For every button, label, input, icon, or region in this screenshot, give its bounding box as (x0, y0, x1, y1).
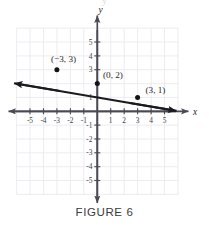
data-point (135, 95, 140, 100)
y-tick-label: -3 (86, 148, 92, 157)
point-label-neg3-3: (−3, 3) (51, 54, 76, 64)
point-label-3-1: (3, 1) (146, 85, 166, 95)
x-tick-label: 3 (136, 116, 140, 125)
x-tick-label: 2 (122, 116, 126, 125)
coordinate-plane-graph: -5 -4 -3 -2 -1 1 2 3 4 5 5 4 3 1 -1 -2 -… (0, 0, 209, 206)
data-point (54, 67, 59, 72)
data-point (95, 81, 100, 86)
y-axis-label: y (98, 5, 104, 15)
x-axis-label: x (192, 107, 198, 117)
y-tick-label: -4 (86, 162, 92, 171)
x-tick-label: 1 (109, 116, 113, 125)
y-tick-label: -1 (86, 121, 92, 130)
point-label-0-2: (0, 2) (103, 70, 123, 80)
line-arrow-left (14, 83, 60, 91)
x-tick-label: 4 (149, 116, 153, 125)
x-tick-label: -3 (54, 116, 60, 125)
y-tick-label: -2 (86, 135, 92, 144)
y-tick-label: 4 (89, 52, 93, 61)
y-tick-label: 3 (89, 65, 93, 74)
x-tick-label: -2 (67, 116, 73, 125)
line-arrow-right (130, 103, 177, 111)
figure-container: y (0, 0, 209, 230)
x-tick-label: -5 (27, 116, 33, 125)
y-tick-label: 5 (89, 38, 93, 47)
y-tick-label: -5 (86, 176, 92, 185)
figure-caption: FIGURE 6 (0, 206, 209, 218)
x-tick-label: -4 (40, 116, 46, 125)
x-tick-label: 5 (163, 116, 167, 125)
